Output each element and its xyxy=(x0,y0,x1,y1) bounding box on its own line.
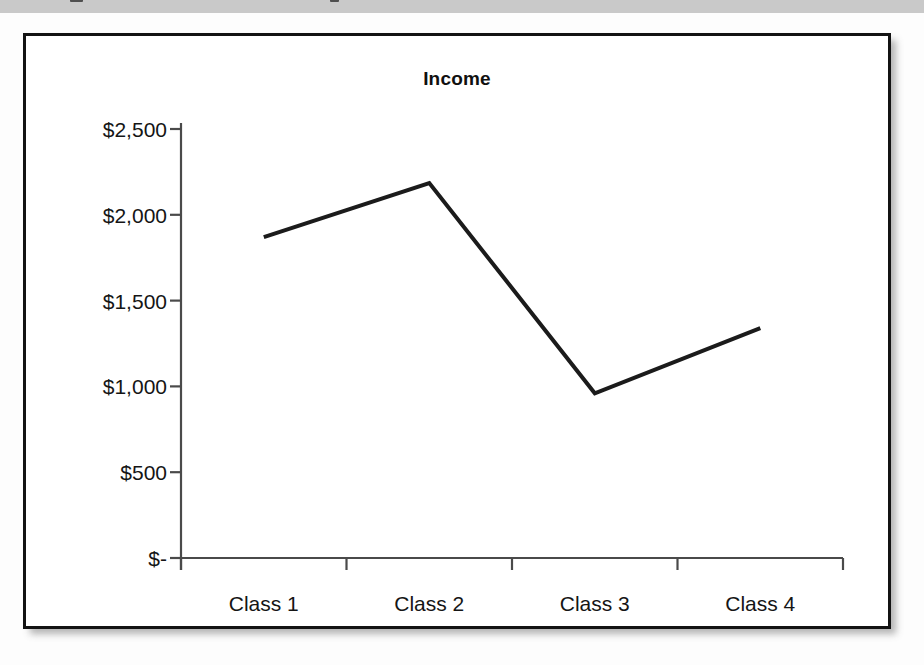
ink-smudge-mid xyxy=(330,0,339,2)
ink-smudge-left xyxy=(70,0,83,2)
chart-figure-frame: Income $-$500$1,000$1,500$2,000$2,500 Cl… xyxy=(23,33,891,629)
chart-series-layer xyxy=(26,36,888,626)
page-top-grey-band xyxy=(0,0,924,13)
scanned-page-background: Income $-$500$1,000$1,500$2,000$2,500 Cl… xyxy=(0,0,924,665)
chart-plot-area: Income $-$500$1,000$1,500$2,000$2,500 Cl… xyxy=(26,36,888,626)
